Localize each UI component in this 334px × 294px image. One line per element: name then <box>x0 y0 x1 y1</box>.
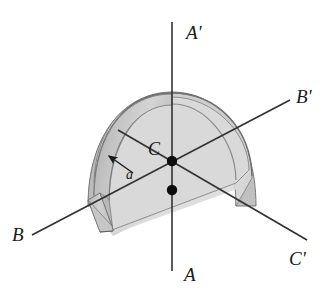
center-point <box>167 156 177 166</box>
axis-label-b-prime: B' <box>296 86 313 107</box>
geometry-figure: A' A B' B C C' a <box>0 0 334 294</box>
axis-label-a: A <box>182 264 196 285</box>
axis-label-a-prime: A' <box>184 22 203 43</box>
axis-label-c-prime: C' <box>289 248 307 269</box>
axis-label-b: B <box>12 224 24 245</box>
base-point <box>167 185 177 195</box>
dimension-label-a: a <box>126 167 133 182</box>
point-label-c: C <box>148 139 161 159</box>
figure-canvas: A' A B' B C C' a <box>0 0 334 294</box>
